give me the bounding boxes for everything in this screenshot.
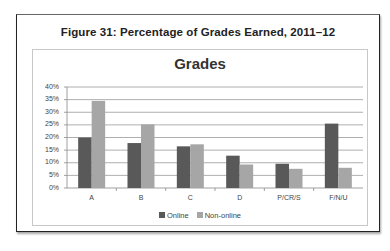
x-tick-label: P/CR/S bbox=[264, 194, 314, 201]
bar-online-d bbox=[226, 156, 240, 188]
bar-online-a bbox=[78, 138, 92, 189]
bar-non-online-d bbox=[240, 165, 254, 188]
x-tick-label: D bbox=[215, 194, 265, 201]
bar-non-online-p-cr-s bbox=[289, 169, 303, 188]
x-tick-label: B bbox=[116, 194, 166, 201]
x-tick-label: A bbox=[67, 194, 117, 201]
legend-item: Online bbox=[159, 211, 189, 220]
y-tick-label: 10% bbox=[33, 158, 59, 165]
y-tick-label: 35% bbox=[33, 95, 59, 102]
bar-non-online-f-n-u bbox=[338, 168, 352, 188]
y-tick-label: 5% bbox=[33, 171, 59, 178]
x-tick-label: C bbox=[165, 194, 215, 201]
legend-label: Online bbox=[167, 211, 189, 220]
y-tick-label: 0% bbox=[33, 184, 59, 191]
y-tick-label: 40% bbox=[33, 83, 59, 90]
bar-non-online-b bbox=[141, 124, 155, 188]
legend-item: Non-online bbox=[197, 211, 241, 220]
chart-area: Grades 0%5%10%15%20%25%30%35%40% ABCDP/C… bbox=[32, 49, 368, 226]
x-tick-label: F/N/U bbox=[313, 194, 363, 201]
legend: OnlineNon-online bbox=[33, 211, 367, 220]
figure-title: Figure 31: Percentage of Grades Earned, … bbox=[17, 26, 379, 38]
bar-online-f-n-u bbox=[325, 124, 339, 188]
legend-swatch-icon bbox=[159, 212, 165, 218]
bar-non-online-c bbox=[190, 144, 204, 188]
y-tick-label: 25% bbox=[33, 120, 59, 127]
figure-frame: Figure 31: Percentage of Grades Earned, … bbox=[16, 14, 380, 232]
legend-label: Non-online bbox=[205, 211, 241, 220]
bar-non-online-a bbox=[92, 101, 106, 188]
legend-swatch-icon bbox=[197, 212, 203, 218]
bar-online-p-cr-s bbox=[276, 164, 290, 188]
y-tick-label: 30% bbox=[33, 108, 59, 115]
bar-online-c bbox=[177, 146, 191, 188]
y-tick-label: 20% bbox=[33, 133, 59, 140]
y-tick-label: 15% bbox=[33, 146, 59, 153]
bar-online-b bbox=[128, 143, 142, 188]
